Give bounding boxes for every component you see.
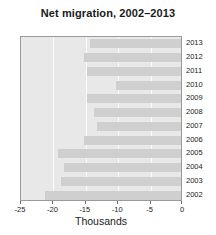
- x-tick-mark: [85, 201, 86, 204]
- chart-title: Net migration, 2002–2013: [0, 7, 216, 19]
- x-tick-label--25: -25: [15, 205, 26, 214]
- y-tick-label-2009: 2009: [186, 93, 203, 102]
- y-tick-label-2007: 2007: [186, 121, 203, 130]
- bar-row: [20, 81, 181, 90]
- x-tick-label-0: 0: [180, 205, 184, 214]
- bar-2005: [58, 149, 181, 158]
- x-tick-mark: [52, 201, 53, 204]
- y-tick-label-2010: 2010: [186, 80, 203, 89]
- bar-2012: [84, 53, 181, 62]
- x-tick-label--5: -5: [146, 205, 153, 214]
- x-tick-mark: [20, 201, 21, 204]
- bar-2004: [64, 163, 181, 172]
- bar-row: [20, 39, 181, 48]
- bar-row: [20, 177, 181, 186]
- y-tick-label-2006: 2006: [186, 135, 203, 144]
- y-tick-label-2004: 2004: [186, 162, 203, 171]
- bar-2006: [84, 136, 181, 145]
- y-tick-label-2005: 2005: [186, 148, 203, 157]
- bar-2002: [45, 191, 181, 200]
- x-tick-label--15: -15: [79, 205, 90, 214]
- y-tick-label-2012: 2012: [186, 52, 203, 61]
- y-axis-tick-labels: 2013201220112010200920082007200620052004…: [184, 36, 216, 201]
- bar-row: [20, 53, 181, 62]
- bar-2010: [116, 81, 181, 90]
- y-tick-label-2008: 2008: [186, 107, 203, 116]
- y-tick-label-2003: 2003: [186, 176, 203, 185]
- plot-area: [20, 36, 182, 201]
- bar-2013: [90, 39, 181, 48]
- bar-2003: [61, 177, 181, 186]
- bar-row: [20, 108, 181, 117]
- bar-row: [20, 163, 181, 172]
- bar-2009: [87, 94, 181, 103]
- x-tick-mark: [150, 201, 151, 204]
- x-tick-label--20: -20: [47, 205, 58, 214]
- x-axis-title: Thousands: [0, 215, 202, 227]
- y-tick-label-2002: 2002: [186, 190, 203, 199]
- bar-2008: [94, 108, 181, 117]
- x-axis: -25-20-15-10-50: [20, 201, 182, 215]
- y-tick-label-2011: 2011: [186, 66, 202, 75]
- bar-2007: [97, 122, 181, 131]
- bar-2011: [87, 67, 181, 76]
- bar-row: [20, 149, 181, 158]
- bar-row: [20, 191, 181, 200]
- bar-row: [20, 122, 181, 131]
- bar-row: [20, 94, 181, 103]
- x-tick-label--10: -10: [112, 205, 123, 214]
- net-migration-bar-chart: Net migration, 2002–2013 201320122011201…: [0, 0, 216, 235]
- x-tick-mark: [181, 201, 182, 204]
- bar-row: [20, 136, 181, 145]
- x-tick-mark: [117, 201, 118, 204]
- bar-row: [20, 67, 181, 76]
- y-tick-label-2013: 2013: [186, 38, 203, 47]
